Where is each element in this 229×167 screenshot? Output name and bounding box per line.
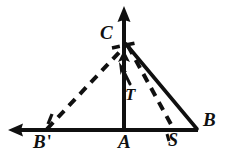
label-b-prime-tick: ' — [46, 132, 52, 152]
up-arrowhead-icon — [118, 6, 131, 22]
label-point-c: C — [100, 23, 113, 42]
left-arrowhead-icon — [8, 124, 23, 137]
label-point-b: B — [203, 110, 216, 129]
label-point-b-prime: B' — [33, 132, 52, 151]
label-b-prime-letter: B — [33, 131, 46, 152]
dashed-line-bprime-to-c — [47, 44, 127, 129]
geometry-figure: C T B' A S B — [0, 0, 229, 167]
label-point-s: S — [168, 131, 178, 149]
label-point-t: T — [125, 86, 135, 103]
label-point-a: A — [118, 132, 131, 151]
solid-hypotenuse-c-to-b — [126, 44, 197, 129]
